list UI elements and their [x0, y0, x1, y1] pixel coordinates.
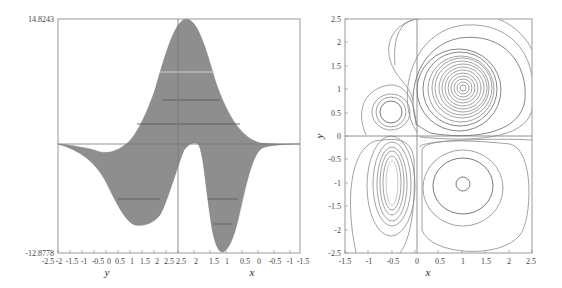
svg-text:-1: -1: [287, 257, 294, 266]
svg-text:0: 0: [337, 132, 341, 141]
svg-text:0.5: 0.5: [240, 257, 250, 266]
left-y-top-label: 14.8243: [28, 15, 54, 24]
svg-text:-1: -1: [81, 257, 88, 266]
svg-text:1.5: 1.5: [331, 62, 341, 71]
svg-text:0: 0: [107, 257, 111, 266]
svg-text:1: 1: [130, 257, 134, 266]
svg-text:2.5: 2.5: [526, 257, 536, 266]
svg-text:0: 0: [415, 257, 419, 266]
svg-text:-1.5: -1.5: [66, 257, 79, 266]
svg-text:-1: -1: [334, 179, 341, 188]
svg-text:2.5: 2.5: [331, 15, 341, 24]
svg-text:-2.5: -2.5: [42, 257, 55, 266]
svg-text:2: 2: [155, 257, 159, 266]
svg-text:2: 2: [337, 38, 341, 47]
svg-text:1.5: 1.5: [140, 257, 150, 266]
svg-text:-1.5: -1.5: [328, 202, 341, 211]
right-contour-plot: 2.5 2 1.5 1 0.5 0 -0.5 -1 -1.5 -2 -2.5 -…: [313, 15, 536, 278]
right-y-tick-labels: 2.5 2 1.5 1 0.5 0 -0.5 -1 -1.5 -2 -2.5: [328, 15, 341, 258]
svg-text:1.5: 1.5: [209, 257, 219, 266]
svg-text:1: 1: [337, 85, 341, 94]
svg-text:1.5: 1.5: [481, 257, 491, 266]
svg-text:2: 2: [507, 257, 511, 266]
svg-text:-0.5: -0.5: [92, 257, 105, 266]
svg-text:0: 0: [257, 257, 261, 266]
vortex-lower-left: [350, 136, 415, 253]
svg-text:-2: -2: [56, 257, 63, 266]
svg-text:-1: -1: [366, 257, 373, 266]
svg-text:-0.5: -0.5: [387, 257, 400, 266]
svg-text:-0.5: -0.5: [269, 257, 282, 266]
left-axis-label-x: x: [249, 266, 255, 278]
svg-text:2: 2: [194, 257, 198, 266]
left-x-tick-labels: -2.5 -2 -1.5 -1 -0.5 0 0.5 1 1.5 2 2.5 2…: [42, 257, 310, 266]
svg-text:-2: -2: [334, 226, 341, 235]
svg-text:-1.5: -1.5: [297, 257, 310, 266]
left-axis-label-y: y: [104, 266, 110, 278]
svg-text:0.5: 0.5: [115, 257, 125, 266]
svg-text:1: 1: [225, 257, 229, 266]
figure: 14.8243 -12.8778 -2.5 -2 -1.5 -1 -0.5 0 …: [0, 0, 562, 288]
vortex-upper-left: [362, 19, 416, 135]
svg-text:1: 1: [461, 257, 465, 266]
vortex-lower-right: [420, 139, 532, 251]
right-axis-label-x: x: [425, 266, 431, 278]
svg-text:-0.5: -0.5: [328, 155, 341, 164]
svg-text:0.5: 0.5: [435, 257, 445, 266]
right-x-tick-labels: -1.5 -1 -0.5 0 0.5 1 1.5 2 2.5: [339, 257, 536, 266]
svg-text:0.5: 0.5: [331, 109, 341, 118]
svg-text:2.5: 2.5: [176, 257, 186, 266]
svg-text:2.5: 2.5: [164, 257, 174, 266]
svg-text:-1.5: -1.5: [339, 257, 352, 266]
right-axis-label-y: y: [313, 133, 325, 139]
surface-fill: [58, 19, 300, 252]
left-surface-plot: 14.8243 -12.8778 -2.5 -2 -1.5 -1 -0.5 0 …: [25, 15, 309, 278]
